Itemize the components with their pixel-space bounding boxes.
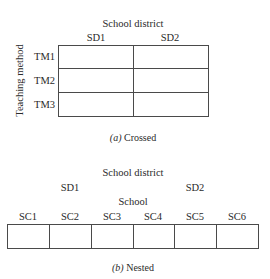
inner-level-sc1: SC1 [19,211,37,223]
outer-factor-label: School district [103,167,164,179]
column-header-sd2: SD2 [161,32,180,44]
cell-divider [174,224,175,249]
cell-divider [49,224,50,249]
cell-divider [91,224,92,249]
inner-level-sc2: SC2 [61,211,79,223]
cell-divider [216,224,217,249]
row-factor-label: Teaching method [14,36,25,126]
row-header-tm2: TM2 [34,75,55,87]
row-header-tm1: TM1 [34,51,55,63]
column-factor-label: School district [103,18,164,30]
row-header-tm3: TM3 [34,99,55,111]
inner-level-sc3: SC3 [103,211,121,223]
grid-divider-row1 [58,68,209,69]
inner-factor-label: School [118,196,147,208]
cell-divider [133,224,134,249]
grid-divider-vertical [133,45,134,117]
outer-level-sd2: SD2 [186,182,205,194]
grid-divider-row2 [58,92,209,93]
column-header-sd1: SD1 [87,32,106,44]
inner-level-sc4: SC4 [144,211,162,223]
inner-level-sc5: SC5 [186,211,204,223]
nested-caption: (b) Nested [112,262,154,273]
crossed-caption: (a) Crossed [110,132,156,143]
inner-level-sc6: SC6 [228,211,246,223]
outer-level-sd1: SD1 [61,182,80,194]
